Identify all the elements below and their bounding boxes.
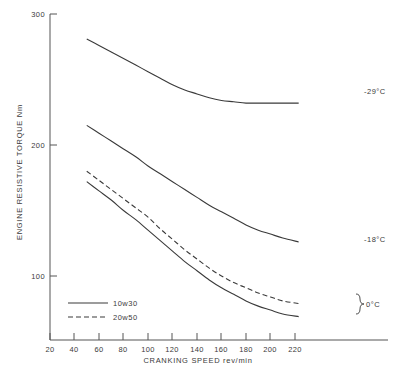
y-axis: 300 200 100 ENGINE RESISTIVE TORQUE Nm — [15, 10, 57, 340]
y-tick-label-100: 100 — [31, 272, 45, 281]
x-tick-label-140: 140 — [190, 345, 204, 354]
x-tick-label-80: 80 — [118, 345, 127, 354]
legend-label-10w30: 10w30 — [113, 299, 138, 308]
chart-figure: 300 200 100 ENGINE RESISTIVE TORQUE Nm 2… — [0, 0, 403, 368]
brace-0c — [356, 294, 364, 314]
x-tick-label-40: 40 — [69, 345, 78, 354]
x-tick-label-180: 180 — [239, 345, 253, 354]
series-annotations: -29°C -18°C 0°C — [356, 87, 386, 314]
x-tick-label-160: 160 — [214, 345, 228, 354]
legend-label-20w50: 20w50 — [113, 313, 138, 322]
legend: 10w30 20w50 — [68, 299, 138, 322]
x-tick-label-100: 100 — [141, 345, 155, 354]
x-tick-label-60: 60 — [94, 345, 103, 354]
curve-minus18c — [87, 125, 299, 242]
x-tick-label-200: 200 — [263, 345, 277, 354]
y-tick-label-300: 300 — [31, 10, 45, 19]
x-axis-title: CRANKING SPEED rev/min — [143, 356, 252, 365]
x-tick-label-120: 120 — [165, 345, 179, 354]
curve-0c-20w50 — [87, 171, 299, 303]
annotation-minus18c: -18°C — [364, 235, 386, 244]
annotation-0c: 0°C — [366, 300, 380, 309]
x-tick-label-20: 20 — [45, 345, 54, 354]
plot-curves — [87, 39, 299, 317]
curve-minus29c — [87, 39, 299, 103]
y-tick-label-200: 200 — [31, 141, 45, 150]
y-axis-title: ENGINE RESISTIVE TORQUE Nm — [15, 104, 24, 240]
engine-resistive-torque-chart: 300 200 100 ENGINE RESISTIVE TORQUE Nm 2… — [0, 0, 403, 368]
x-tick-label-220: 220 — [288, 345, 302, 354]
x-axis: 20 40 60 80 100 120 140 160 180 200 220 … — [45, 333, 388, 365]
annotation-minus29c: -29°C — [364, 87, 386, 96]
